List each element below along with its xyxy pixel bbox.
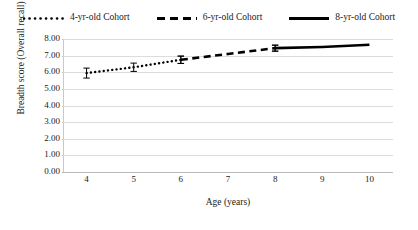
x-tick-label: 5 [119, 175, 149, 184]
legend-label-6yr: 6-yr-old Cohort [203, 13, 263, 23]
y-tick-label: 8.00 [10, 34, 60, 43]
series-solid [272, 45, 369, 51]
y-tick-label: 3.00 [10, 117, 60, 126]
series-line [275, 45, 369, 48]
x-tick-label: 6 [166, 175, 196, 184]
series-dashed [178, 45, 279, 63]
x-axis-baseline [63, 172, 393, 173]
series-line [181, 48, 275, 60]
y-tick-label: 0.00 [10, 167, 60, 176]
y-tick-label: 5.00 [10, 84, 60, 93]
y-tick-label: 7.00 [10, 51, 60, 60]
dotted-line-icon [23, 14, 65, 23]
y-tick-label: 1.00 [10, 150, 60, 159]
dashed-line-icon [156, 14, 198, 23]
chart-legend: 4-yr-old Cohort 6-yr-old Cohort 8-yr-old… [0, 8, 418, 28]
legend-label-4yr: 4-yr-old Cohort [70, 13, 130, 23]
x-tick-label: 10 [354, 175, 384, 184]
error-bar [131, 63, 137, 71]
y-tick-label: 4.00 [10, 101, 60, 110]
y-axis-ticks: 8.007.006.005.004.003.002.001.000.00 [5, 39, 60, 172]
legend-entry-4yr: 4-yr-old Cohort [23, 13, 130, 23]
x-tick-label: 7 [213, 175, 243, 184]
legend-entry-8yr: 8-yr-old Cohort [288, 13, 395, 23]
y-tick-label: 6.00 [10, 67, 60, 76]
x-axis-title: Age (years) [63, 197, 393, 207]
x-tick-label: 8 [260, 175, 290, 184]
x-tick-label: 4 [72, 175, 102, 184]
legend-label-8yr: 8-yr-old Cohort [335, 13, 395, 23]
legend-entry-6yr: 6-yr-old Cohort [156, 13, 263, 23]
plot-area [63, 39, 393, 172]
error-bar [83, 68, 89, 78]
series-layer [63, 39, 393, 172]
breadth-score-line-chart: 4-yr-old Cohort 6-yr-old Cohort 8-yr-old… [0, 0, 418, 230]
x-axis-ticks: 45678910 [63, 175, 393, 189]
y-tick-label: 2.00 [10, 134, 60, 143]
solid-line-icon [288, 14, 330, 23]
x-tick-label: 9 [307, 175, 337, 184]
series-dotted [83, 56, 184, 78]
